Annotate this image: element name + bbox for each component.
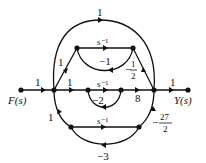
arrow-icon xyxy=(41,87,46,93)
gain-upper-forward: s⁻¹ xyxy=(97,37,109,47)
node xyxy=(130,45,135,50)
node xyxy=(85,87,90,92)
node xyxy=(74,45,79,50)
gain-top: 1 xyxy=(97,6,103,18)
node-output xyxy=(185,87,190,92)
lower-in-branch xyxy=(54,90,71,127)
output-label: Y(s) xyxy=(174,94,192,107)
gain-lower-feedback: −3 xyxy=(97,150,109,162)
node xyxy=(118,87,123,92)
lower-feedback-branch xyxy=(71,127,139,144)
gain-mid-in: 1 xyxy=(67,76,73,88)
gain-lower-forward: s⁻¹ xyxy=(97,116,109,126)
gain-upper-out-den: 2 xyxy=(131,71,136,81)
gain-lower-out-num: 27 xyxy=(160,112,170,122)
gain-lower-out-sign: − xyxy=(152,116,158,128)
input-label: F(s) xyxy=(7,94,27,107)
gain-output: 1 xyxy=(170,76,176,88)
node xyxy=(136,124,141,129)
gain-mid-forward: s⁻¹ xyxy=(97,79,109,89)
gain-lower-out-den: 2 xyxy=(163,124,168,134)
node xyxy=(51,87,56,92)
gain-lower-in: 1 xyxy=(48,111,54,123)
arrow-icon xyxy=(108,67,113,73)
node xyxy=(151,87,156,92)
signal-flow-graph: F(s) Y(s) 1 1 1 1 s⁻¹ −1 − 1 2 1 s⁻¹ −2 … xyxy=(0,0,206,163)
gain-upper-in: 1 xyxy=(58,56,64,68)
gain-mid-out: 8 xyxy=(135,92,141,104)
node-input xyxy=(18,87,23,92)
gain-upper-feedback: −1 xyxy=(99,55,111,67)
gain-mid-feedback: −2 xyxy=(92,94,104,106)
arrow-icon xyxy=(101,142,106,148)
gain-upper-out-num: 1 xyxy=(131,59,136,69)
gain-input: 1 xyxy=(35,76,41,88)
node xyxy=(68,124,73,129)
